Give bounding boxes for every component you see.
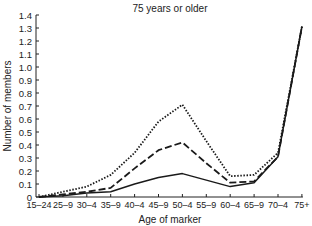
y-tick-label: 1.0 (19, 62, 32, 73)
x-tick-label: 70–4 (268, 200, 288, 210)
series-line-solid (39, 27, 302, 197)
y-tick-label: 0.7 (19, 101, 32, 112)
x-axis: 15–2425–930–435–940–445–950–455–960–465–… (26, 194, 309, 210)
y-tick-label: 1.3 (19, 23, 32, 34)
y-tick-label: 0.9 (19, 75, 32, 86)
chart: 75 years or older 00.10.20.30.40.50.60.7… (0, 0, 312, 226)
y-axis-label: Number of members (2, 60, 13, 151)
x-tick-label: 50–4 (172, 200, 192, 210)
y-tick-label: 0.1 (19, 179, 32, 190)
y-tick-label: 0.3 (19, 153, 32, 164)
x-axis-label: Age of marker (139, 214, 202, 225)
y-tick-label: 1.2 (19, 36, 32, 47)
y-tick-label: 0.5 (19, 127, 32, 138)
x-tick-label: 45–9 (148, 200, 168, 210)
x-tick-label: 55–9 (196, 200, 216, 210)
y-tick-label: 0.4 (19, 140, 32, 151)
y-axis: 00.10.20.30.40.50.60.70.80.91.01.11.21.3… (19, 10, 39, 203)
series-line-dotted (39, 27, 302, 197)
x-tick-label: 25–9 (53, 200, 73, 210)
x-tick-label: 30–4 (77, 200, 97, 210)
y-tick-label: 0.2 (19, 166, 32, 177)
x-tick-label: 75+ (294, 200, 309, 210)
x-tick-label: 40–4 (125, 200, 145, 210)
x-tick-label: 60–4 (220, 200, 240, 210)
series-line-dashed (39, 27, 302, 197)
line-chart: 75 years or older 00.10.20.30.40.50.60.7… (0, 0, 312, 226)
y-tick-label: 1.4 (19, 10, 32, 21)
y-tick-label: 1.1 (19, 49, 32, 60)
x-tick-label: 15–24 (26, 200, 51, 210)
series-lines (39, 27, 302, 197)
y-tick-label: 0.8 (19, 88, 32, 99)
x-tick-label: 35–9 (101, 200, 121, 210)
y-tick-label: 0.6 (19, 114, 32, 125)
chart-title: 75 years or older (132, 3, 208, 14)
x-tick-label: 65–9 (244, 200, 264, 210)
